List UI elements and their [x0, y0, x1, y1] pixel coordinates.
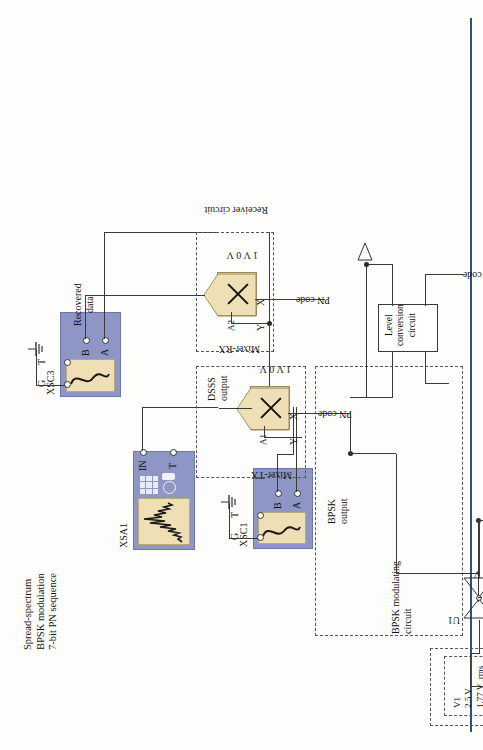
figure-note: Spread-spectrum BPSK modulation 7-bit PN…	[22, 573, 60, 650]
wire-mixer-tx-out	[219, 408, 252, 409]
xsc1-terminal-a-label: A	[291, 502, 303, 509]
wire-xsc3-b-drop	[85, 295, 195, 296]
mixer-tx-levels-label: 1 V 0 V	[260, 363, 291, 375]
mixer-rx-outline	[202, 272, 258, 318]
xsc1-terminal-g[interactable]	[257, 534, 264, 541]
dsss-output-label: DSSS output	[206, 375, 230, 401]
xsc3-waveform-trace	[66, 361, 113, 392]
wire-lvl-bottom	[425, 274, 426, 306]
node-pncode-trunk	[364, 262, 369, 267]
wire-lvl-in-bottom-riser	[425, 383, 449, 384]
wire-mixer-rx-a2	[231, 312, 232, 324]
bpsk-output-label: BPSK output	[326, 498, 350, 524]
u1-analog-switch[interactable]	[462, 576, 483, 620]
xsa1-knob-icon	[163, 481, 176, 494]
wire-xsc3-b	[85, 295, 86, 339]
wire-bpsk-left-drop	[396, 573, 478, 574]
figure-page: Spread-spectrum BPSK modulation 7-bit PN…	[0, 0, 483, 750]
xsc1-terminal-t-label: T	[229, 512, 241, 518]
wire-v1-top	[470, 686, 483, 687]
mixer-rx-pin-y-label: Y	[255, 324, 267, 331]
xsc3-terminal-t[interactable]	[64, 359, 71, 366]
xsc1-terminal-t[interactable]	[257, 512, 264, 519]
wire-mixer-tx-y	[264, 437, 302, 438]
wire-u1-ctrl	[478, 597, 482, 598]
xsa1-terminal-t-label: T	[167, 463, 179, 469]
wire-bpsk-bus	[396, 454, 397, 574]
wire-bpsk-to-mixer-x	[350, 412, 351, 454]
xsc3-terminal-g[interactable]	[64, 381, 71, 388]
wire-bpsk-riser	[350, 453, 396, 454]
wire-v1-to-u1	[470, 653, 471, 687]
wire-xsa1-in	[142, 407, 143, 451]
receiver-circuit-label: Receiver circuit	[204, 204, 268, 216]
wire-mixer-rx-y	[231, 323, 269, 324]
xsa1-ref-label: XSA1	[118, 523, 130, 548]
xsc3-terminal-a-label: A	[99, 349, 111, 356]
ground-symbol-xsc3	[28, 340, 46, 358]
xsa1-terminal-t[interactable]	[170, 449, 177, 456]
xsc1-terminal-b-label: B	[272, 502, 284, 509]
xsc1-waveform-trace	[258, 514, 304, 544]
wire-pncode-trunk	[366, 265, 367, 398]
wire-v1-up	[470, 653, 480, 654]
wire-switch-out-bus	[479, 520, 483, 521]
wire-lvl-bottom-drop	[425, 274, 463, 275]
wire-lvl-in-bottom	[425, 352, 426, 384]
schematic-canvas: Spread-spectrum BPSK modulation 7-bit PN…	[0, 0, 483, 750]
mixer-tx-outline	[235, 386, 291, 432]
wire-lvl-out-top	[392, 264, 393, 306]
wire-receiver-out	[269, 232, 270, 324]
xsc3-terminal-t-label: T	[36, 359, 48, 365]
pn-code-rx-label: PN code	[296, 294, 330, 306]
pn-code-buffer-triangle	[356, 241, 374, 261]
rotated-figure-wrapper: Spread-spectrum BPSK modulation 7-bit PN…	[0, 0, 483, 750]
bpsk-modulating-circuit-label: BPSK modulating circuit	[390, 561, 414, 634]
xsa1-terminal-in-label: IN	[137, 460, 149, 471]
xsa1-spectrum-trace	[138, 500, 188, 545]
wire-xsc1-g	[229, 538, 258, 539]
xsa1-keypad-icon	[140, 476, 158, 494]
wire-xsc3-a	[104, 232, 105, 339]
ground-symbol-xsc1	[221, 493, 239, 511]
mixer-rx-label: Mixer-RX	[219, 343, 260, 355]
mixer-rx-levels-label: 1 V 0 V	[227, 249, 258, 261]
pn-code-bottom-label: PN code	[463, 269, 483, 281]
xsc3-terminal-b-label: B	[80, 349, 92, 356]
mixer-tx-label: Mixer-TX	[251, 469, 292, 481]
wire-mixer-rx-out	[195, 295, 205, 296]
xsa1-display-icon	[162, 473, 175, 480]
v1-amplitude: 2.5 V	[463, 688, 473, 708]
v1-ref: V1	[452, 697, 462, 708]
wire-lvl-in-riser	[350, 397, 392, 398]
wire-lvl-out-riser	[366, 264, 393, 265]
wire-xsc3-g	[36, 385, 65, 386]
level-conversion-label: Level conversion circuit	[384, 304, 418, 346]
wire-mixer-tx-a1	[264, 426, 265, 438]
u1-ref-label: U1	[448, 614, 460, 626]
wire-lvl-in-top	[392, 352, 393, 398]
mixer-tx-pin-y-label: Y	[288, 438, 300, 445]
wire-u1-out	[479, 520, 480, 576]
recovered-data-label: Recovered data	[72, 283, 96, 326]
